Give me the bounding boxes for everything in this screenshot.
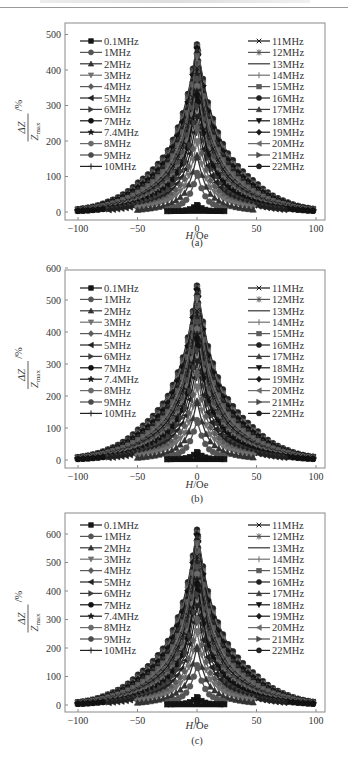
legend-label: 21MHz: [272, 634, 304, 645]
legend-item: 14MHz: [248, 70, 304, 81]
legend-item: 20MHz: [248, 138, 304, 149]
x-tick-label: −100: [68, 471, 89, 482]
legend-label: 0.1MHz: [104, 520, 139, 531]
legend-item: 18MHz: [248, 363, 304, 374]
legend-label: 21MHz: [272, 397, 304, 408]
legend-label: 6MHz: [104, 104, 131, 115]
legend-item: 18MHz: [248, 116, 304, 127]
y-tick-label: 400: [46, 586, 61, 597]
legend-item: 16MHz: [248, 340, 304, 351]
legend-label: 11MHz: [272, 520, 304, 531]
y-tick-label: 200: [46, 643, 61, 654]
legend-item: 6MHz: [80, 104, 131, 115]
legend-item: 13MHz: [248, 543, 304, 554]
legend-item: 22MHz: [248, 408, 304, 419]
legend-label: 13MHz: [272, 306, 304, 317]
y-tick-label: 600: [46, 529, 61, 540]
legend-label: 22MHz: [272, 645, 304, 656]
x-tick-label: 50: [252, 715, 262, 726]
legend-label: 21MHz: [272, 150, 304, 161]
x-axis-label: H/Oe: [185, 720, 209, 731]
legend-label: 8MHz: [104, 622, 131, 633]
y-tick-label: 500: [46, 295, 61, 306]
y-tick-label: 500: [46, 557, 61, 568]
legend-label: 7MHz: [104, 363, 131, 374]
y-tick-label: 0: [56, 207, 61, 218]
legend-label: 0.1MHz: [104, 283, 139, 294]
legend-label: 2MHz: [104, 543, 131, 554]
legend-label: 8MHz: [104, 385, 131, 396]
panel-label: (b): [191, 493, 204, 504]
legend-item: 9MHz: [80, 634, 131, 645]
legend-label: 16MHz: [272, 93, 304, 104]
legend-item: 3MHz: [80, 317, 131, 328]
legend-label: 9MHz: [104, 150, 131, 161]
legend-label: 6MHz: [104, 351, 131, 362]
y-tick-label: 400: [46, 327, 61, 338]
legend-label: 9MHz: [104, 397, 131, 408]
legend-label: 12MHz: [272, 294, 304, 305]
legend-item: 16MHz: [248, 93, 304, 104]
legend-item: 21MHz: [248, 150, 304, 161]
svg-text:/%: /%: [13, 590, 24, 602]
legend-item: 11MHz: [248, 520, 304, 531]
x-tick-label: −100: [68, 223, 89, 234]
legend-item: 2MHz: [80, 543, 131, 554]
panel-label: (a): [191, 237, 203, 249]
legend-item: 17MHz: [248, 588, 304, 599]
legend-label: 8MHz: [104, 138, 131, 149]
legend-item: 3MHz: [80, 70, 131, 81]
legend-item: 7.4MHz: [80, 611, 139, 622]
legend-label: 22MHz: [272, 408, 304, 419]
legend-label: 1MHz: [104, 531, 131, 542]
legend-label: 9MHz: [104, 634, 131, 645]
legend-item: 10MHz: [80, 161, 136, 172]
legend-item: 13MHz: [248, 59, 304, 70]
x-tick-label: 100: [309, 715, 324, 726]
x-tick-label: −50: [130, 471, 146, 482]
legend-item: 12MHz: [248, 531, 304, 542]
legend-item: 7MHz: [80, 116, 131, 127]
legend-item: 20MHz: [248, 385, 304, 396]
legend-label: 7MHz: [104, 600, 131, 611]
legend-label: 13MHz: [272, 59, 304, 70]
y-tick-label: 600: [46, 263, 61, 274]
legend-item: 6MHz: [80, 588, 131, 599]
svg-text:/%: /%: [13, 347, 24, 359]
legend-item: 7MHz: [80, 363, 131, 374]
legend-item: 3MHz: [80, 554, 131, 565]
legend-item: 22MHz: [248, 161, 304, 172]
legend-item: 21MHz: [248, 397, 304, 408]
y-tick-label: 200: [46, 391, 61, 402]
svg-text:Zmax: Zmax: [29, 122, 42, 140]
legend-item: 7.4MHz: [80, 374, 139, 385]
legend-label: 4MHz: [104, 565, 131, 576]
legend-label: 20MHz: [272, 385, 304, 396]
legend-label: 18MHz: [272, 116, 304, 127]
legend-label: 3MHz: [104, 317, 131, 328]
x-tick-label: 50: [252, 223, 262, 234]
legend-label: 15MHz: [272, 565, 304, 576]
legend-label: 19MHz: [272, 127, 304, 138]
legend-item: 6MHz: [80, 351, 131, 362]
legend-label: 5MHz: [104, 93, 131, 104]
x-tick-label: 100: [309, 223, 324, 234]
legend-item: 5MHz: [80, 340, 131, 351]
y-tick-label: 100: [46, 423, 61, 434]
legend-item: 1MHz: [80, 531, 131, 542]
legend-item: 15MHz: [248, 81, 304, 92]
y-tick-label: 200: [46, 136, 61, 147]
legend-item: 13MHz: [248, 306, 304, 317]
legend-label: 2MHz: [104, 59, 131, 70]
y-tick-label: 500: [46, 29, 61, 40]
legend-label: 14MHz: [272, 70, 304, 81]
legend-item: 19MHz: [248, 611, 304, 622]
legend-label: 1MHz: [104, 47, 131, 58]
legend-item: 14MHz: [248, 317, 304, 328]
y-tick-label: 0: [56, 700, 61, 711]
legend-label: 20MHz: [272, 138, 304, 149]
x-tick-label: −100: [68, 715, 89, 726]
chart-panel-c: 0100200300400500600−100−50050100H/Oe(c)Δ…: [0, 504, 348, 766]
legend-item: 5MHz: [80, 577, 131, 588]
svg-text:Zmax: Zmax: [29, 613, 42, 631]
